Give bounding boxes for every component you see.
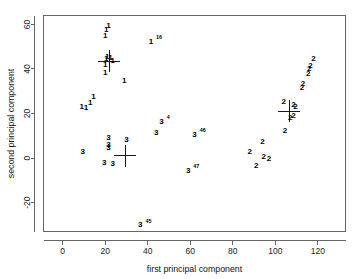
- data-point-id-label: 45: [145, 218, 151, 224]
- x-tick-label: 120: [311, 246, 325, 256]
- data-point-id-label: 4: [167, 114, 170, 120]
- data-point-1: 1: [103, 31, 108, 40]
- data-point-id-label: 47: [193, 163, 199, 169]
- data-point-1: 1: [122, 76, 127, 85]
- data-point-3: 3: [192, 130, 197, 139]
- x-axis-title: first principal component: [147, 264, 243, 274]
- data-point-3: 3: [186, 166, 191, 175]
- data-point-3: 3: [110, 159, 115, 168]
- x-tick-label: 40: [143, 246, 153, 256]
- data-point-2: 2: [283, 126, 288, 135]
- data-point-3: 3: [138, 220, 143, 229]
- data-point-2: 2: [248, 147, 253, 156]
- data-point-3: 3: [106, 143, 111, 152]
- plot-frame: [44, 16, 346, 232]
- data-point-2: 2: [306, 69, 311, 78]
- data-point-1: 1: [84, 103, 89, 112]
- data-point-2: 2: [267, 154, 272, 163]
- data-point-2: 2: [282, 97, 287, 106]
- data-point-1: 1: [103, 68, 108, 77]
- pca-scatter-plot: 020406080100120-200204060first principal…: [0, 0, 360, 279]
- data-point-2: 2: [260, 137, 265, 146]
- x-tick-label: 20: [100, 246, 110, 256]
- x-tick-label: 80: [228, 246, 238, 256]
- y-tick-label: 60: [23, 19, 33, 29]
- data-point-3: 3: [81, 147, 86, 156]
- y-tick-label: 0: [23, 155, 33, 160]
- data-point-id-label: 46: [200, 127, 206, 133]
- x-tick-label: 60: [186, 246, 196, 256]
- data-point-3: 3: [124, 135, 129, 144]
- y-tick-label: 40: [23, 64, 33, 74]
- data-point-3: 3: [159, 117, 164, 126]
- data-point-1: 1: [106, 21, 111, 30]
- data-point-2: 2: [254, 161, 259, 170]
- data-point-1: 1: [88, 98, 93, 107]
- x-tick-label: 100: [268, 246, 282, 256]
- y-axis-title: second principal component: [6, 68, 16, 178]
- data-point-2: 2: [300, 83, 305, 92]
- plot-svg: 020406080100120-200204060first principal…: [0, 0, 360, 279]
- x-tick-label: 0: [60, 246, 65, 256]
- data-point-3: 3: [154, 128, 159, 137]
- data-point-3: 3: [102, 158, 107, 167]
- data-point-2: 2: [293, 102, 298, 111]
- y-tick-label: -20: [23, 196, 33, 209]
- data-point-1: 1: [149, 37, 154, 46]
- data-point-1: 1: [110, 56, 115, 65]
- y-tick-label: 20: [23, 108, 33, 118]
- data-point-id-label: 16: [156, 34, 162, 40]
- data-point-2: 2: [261, 152, 266, 161]
